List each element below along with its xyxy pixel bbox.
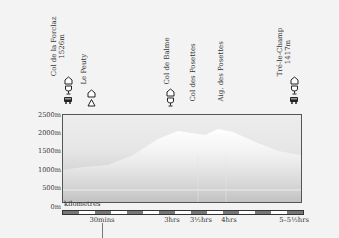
waypoint-label: Col des Posettes: [190, 44, 198, 102]
house-icon: [166, 88, 175, 97]
marker-line: [102, 223, 103, 238]
waypoint-label: Le Peuty: [81, 54, 89, 85]
distance-scale-bar: [62, 210, 304, 215]
waypoint-label: Tré-le-Champ 1417m: [277, 28, 292, 76]
route-profile-figure: Col de la Forclaz 1526m Le Peuty Col de …: [0, 0, 339, 238]
camping-icon: [87, 98, 96, 107]
bus-icon: [289, 95, 299, 105]
time-label-3-5hrs: 3½hrs: [190, 216, 212, 224]
y-tick-1000: 1000m: [38, 166, 61, 174]
house-icon: [290, 76, 299, 85]
house-icon: [64, 76, 73, 85]
y-tick-0: 0m: [51, 203, 61, 211]
time-label-4hrs: 4hrs: [221, 216, 236, 224]
waypoint-label: Aig. des Posettes: [218, 42, 226, 102]
cafe-icon: [166, 97, 175, 107]
y-tick-1500: 1500m: [38, 147, 61, 155]
cafe-icon: [64, 85, 73, 95]
time-label-5-5-5hrs: 5–5½hrs: [279, 216, 309, 224]
waypoint-label: Col de la Forclaz 1526m: [51, 16, 66, 76]
y-tick-2500: 2500m: [38, 111, 61, 119]
x-axis-label: kilometres: [64, 200, 101, 208]
cafe-icon: [290, 85, 299, 95]
elevation-profile-area: [63, 115, 301, 202]
y-tick-2000: 2000m: [38, 129, 61, 137]
bus-icon: [63, 95, 73, 105]
house-icon: [87, 89, 96, 98]
y-tick-500: 500m: [42, 184, 61, 192]
waypoint-label: Col de Balme: [164, 38, 172, 85]
elevation-plot: [62, 114, 302, 203]
time-label-3hrs: 3hrs: [164, 216, 179, 224]
